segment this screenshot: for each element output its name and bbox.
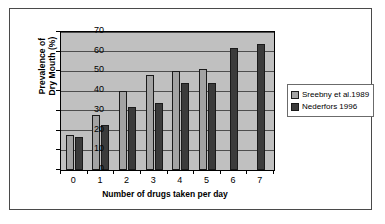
bar — [128, 107, 136, 170]
legend-label-series-2: Nederfors 1996 — [302, 101, 357, 112]
legend-item-series-2: Nederfors 1996 — [291, 101, 369, 112]
x-axis-tick-label: 0 — [63, 175, 83, 185]
bar — [199, 69, 207, 170]
bar — [172, 71, 180, 170]
y-axis-tick-label: 50 — [80, 64, 104, 74]
y-axis-tick-label: 10 — [80, 143, 104, 153]
y-axis-title-line-1: Prevalence of — [37, 6, 47, 126]
y-axis-tick-label: 30 — [80, 104, 104, 114]
y-axis-tick-label: 40 — [80, 84, 104, 94]
legend-swatch-icon-series-1 — [291, 91, 299, 99]
y-axis-tick-mark — [56, 110, 60, 111]
x-axis-tick-mark — [246, 170, 247, 174]
x-axis-tick-mark — [167, 170, 168, 174]
y-axis-tick-mark — [56, 51, 60, 52]
y-axis-title: Prevalence of Dry Mouth (%) — [37, 6, 59, 126]
legend-swatch-icon-series-2 — [291, 103, 299, 111]
y-axis-tick-mark — [56, 130, 60, 131]
x-axis-tick-label: 6 — [223, 175, 243, 185]
x-axis-title: Number of drugs taken per day — [40, 189, 290, 199]
y-axis-tick-mark — [56, 149, 60, 150]
y-axis-tick-mark — [56, 70, 60, 71]
x-axis-tick-mark — [113, 170, 114, 174]
bar — [119, 91, 127, 170]
x-axis-tick-label: 1 — [90, 175, 110, 185]
bar — [230, 48, 238, 170]
x-axis-tick-label: 3 — [143, 175, 163, 185]
y-axis-tick-label: 70 — [80, 25, 104, 35]
bar — [181, 83, 189, 170]
x-axis-tick-mark — [87, 170, 88, 174]
x-axis-tick-mark — [273, 170, 274, 174]
x-axis-tick-label: 5 — [196, 175, 216, 185]
x-axis-tick-label: 2 — [117, 175, 137, 185]
x-axis-tick-mark — [140, 170, 141, 174]
y-axis-tick-label: 20 — [80, 124, 104, 134]
x-axis-tick-label: 7 — [250, 175, 270, 185]
bar — [208, 83, 216, 170]
chart-figure: Prevalence of Dry Mouth (%) 010203040506… — [9, 8, 372, 210]
bar-group — [168, 32, 195, 170]
bar — [257, 44, 265, 170]
bar-group — [114, 32, 141, 170]
y-axis-tick-label: 0 — [80, 163, 104, 173]
bar — [66, 135, 74, 170]
x-axis-tick-mark — [193, 170, 194, 174]
y-axis-title-line-2: Dry Mouth (%) — [47, 6, 57, 126]
chart-legend: Sreebny et al.1989 Nederfors 1996 — [287, 84, 374, 117]
bar-group — [194, 32, 221, 170]
bar-group — [141, 32, 168, 170]
bar-group — [247, 32, 274, 170]
x-axis-tick-label: 4 — [170, 175, 190, 185]
y-axis-tick-label: 60 — [80, 45, 104, 55]
bar — [146, 75, 154, 170]
x-axis-tick-mark — [220, 170, 221, 174]
y-axis-tick-mark — [56, 31, 60, 32]
bar-group — [221, 32, 248, 170]
x-axis-tick-mark — [60, 170, 61, 174]
bar — [155, 103, 163, 170]
y-axis-tick-mark — [56, 90, 60, 91]
legend-label-series-1: Sreebny et al.1989 — [302, 89, 369, 100]
legend-item-series-1: Sreebny et al.1989 — [291, 89, 369, 100]
